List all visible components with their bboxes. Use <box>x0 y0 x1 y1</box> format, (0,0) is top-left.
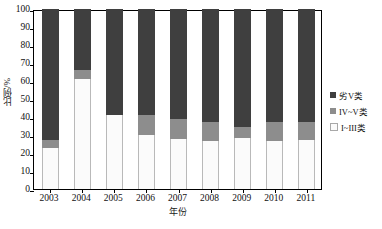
y-tick-label: 80 <box>4 41 30 50</box>
legend: 劣V类IV~V类I~III类 <box>330 88 382 136</box>
legend-label: IV~V类 <box>339 105 368 117</box>
bar-segment[interactable] <box>138 135 155 189</box>
legend-item[interactable]: IV~V类 <box>330 104 382 117</box>
x-tick-label: 2006 <box>128 193 162 203</box>
y-tick-label: 0 <box>4 185 30 194</box>
y-tick-label: 90 <box>4 23 30 32</box>
bar-stack[interactable] <box>42 9 59 189</box>
y-tick <box>30 65 34 66</box>
y-tick <box>30 173 34 174</box>
x-tick-label: 2007 <box>161 193 195 203</box>
bar-segment[interactable] <box>202 122 219 141</box>
bar-segment[interactable] <box>170 119 187 139</box>
legend-swatch-icon <box>330 123 338 131</box>
y-tick-label: 60 <box>4 77 30 86</box>
y-tick <box>30 29 34 30</box>
bar-segment[interactable] <box>266 9 283 122</box>
bar-segment[interactable] <box>266 122 283 141</box>
legend-swatch-icon <box>330 92 336 98</box>
bar-segment[interactable] <box>298 122 315 140</box>
y-tick <box>30 101 34 102</box>
legend-swatch-icon <box>330 108 336 114</box>
legend-label: 劣V类 <box>339 89 363 101</box>
bar-segment[interactable] <box>42 9 59 140</box>
bar-stack[interactable] <box>234 9 251 189</box>
x-axis-title: 年份 <box>33 205 322 218</box>
bar-segment[interactable] <box>266 141 283 189</box>
y-tick-label: 100 <box>4 5 30 14</box>
bar-segment[interactable] <box>202 141 219 189</box>
y-tick <box>30 47 34 48</box>
legend-label: I~III类 <box>341 121 366 133</box>
bar-stack[interactable] <box>202 9 219 189</box>
bar-segment[interactable] <box>106 115 123 189</box>
bar-stack[interactable] <box>298 9 315 189</box>
bar-stack[interactable] <box>170 9 187 189</box>
bar-stack[interactable] <box>106 9 123 189</box>
y-tick-label: 40 <box>4 113 30 122</box>
bar-segment[interactable] <box>170 9 187 119</box>
x-tick-label: 2005 <box>96 193 130 203</box>
y-tick-label: 20 <box>4 149 30 158</box>
y-tick-label: 30 <box>4 131 30 140</box>
x-tick-label: 2003 <box>32 193 66 203</box>
bar-segment[interactable] <box>42 148 59 189</box>
x-tick-label: 2009 <box>225 193 259 203</box>
bar-stack[interactable] <box>266 9 283 189</box>
y-tick <box>30 11 34 12</box>
x-tick-label: 2011 <box>289 193 323 203</box>
y-tick <box>30 137 34 138</box>
y-tick <box>30 119 34 120</box>
y-tick-label: 10 <box>4 167 30 176</box>
bar-segment[interactable] <box>202 9 219 122</box>
bar-segment[interactable] <box>170 139 187 189</box>
y-tick-label: 70 <box>4 59 30 68</box>
y-tick-label: 50 <box>4 95 30 104</box>
bar-segment[interactable] <box>74 70 91 79</box>
bar-stack[interactable] <box>138 9 155 189</box>
bar-segment[interactable] <box>234 138 251 189</box>
y-tick <box>30 191 34 192</box>
bar-segment[interactable] <box>298 140 315 190</box>
x-tick-label: 2008 <box>193 193 227 203</box>
bar-segment[interactable] <box>138 115 155 135</box>
y-tick <box>30 155 34 156</box>
bar-segment[interactable] <box>106 9 123 115</box>
plot-inner <box>34 11 321 189</box>
bar-segment[interactable] <box>298 9 315 122</box>
plot-area <box>33 10 322 190</box>
y-tick <box>30 83 34 84</box>
bar-segment[interactable] <box>74 9 91 70</box>
bar-segment[interactable] <box>138 9 155 115</box>
legend-item[interactable]: I~III类 <box>330 120 382 133</box>
bar-segment[interactable] <box>234 9 251 127</box>
x-tick-label: 2010 <box>257 193 291 203</box>
bar-segment[interactable] <box>42 140 59 147</box>
bar-segment[interactable] <box>234 127 251 138</box>
bar-stack[interactable] <box>74 9 91 189</box>
legend-item[interactable]: 劣V类 <box>330 88 382 101</box>
chart-figure: 比例/% 年份 劣V类IV~V类I~III类 01020304050607080… <box>0 0 382 229</box>
bar-segment[interactable] <box>74 79 91 189</box>
x-tick-label: 2004 <box>64 193 98 203</box>
